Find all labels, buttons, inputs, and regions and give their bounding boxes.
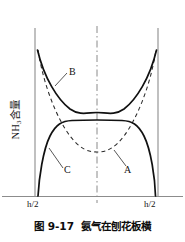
figure-container: NH3含量 B C A h/2 h/2 图 9-17氨气在刨花板横 xyxy=(0,0,185,242)
curve-label-c: C xyxy=(64,165,71,175)
figure-caption-text: 氨气在刨花板横 xyxy=(81,220,151,232)
x-axis-tick-label-right: h/2 xyxy=(144,200,156,209)
figure-caption: 图 9-17氨气在刨花板横 xyxy=(0,220,185,232)
curve-label-a: A xyxy=(124,165,131,175)
leader-line-c xyxy=(49,148,63,168)
curve-label-b: B xyxy=(69,67,76,77)
leader-line-b xyxy=(55,73,67,86)
x-axis-tick-label-left: h/2 xyxy=(27,200,39,209)
figure-caption-number: 图 9-17 xyxy=(34,220,74,232)
